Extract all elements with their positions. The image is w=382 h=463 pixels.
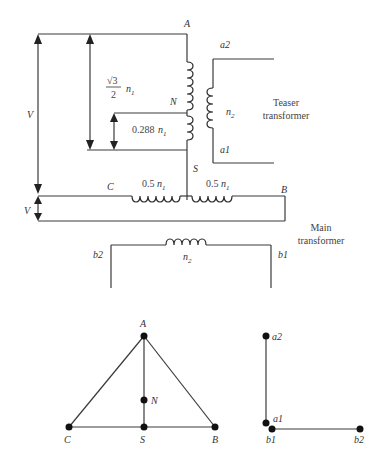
node-N xyxy=(141,397,148,404)
node-b2 xyxy=(357,426,364,433)
label-B: B xyxy=(281,184,287,195)
teaser-label-line1: Teaser xyxy=(273,97,300,108)
svg-text:n1: n1 xyxy=(221,178,230,192)
main-label-line2: transformer xyxy=(298,235,345,246)
label-S: S xyxy=(193,163,198,174)
svg-text:n1: n1 xyxy=(158,124,167,138)
svg-text:n1: n1 xyxy=(157,178,166,192)
svg-text:2: 2 xyxy=(111,89,116,100)
svg-text:N: N xyxy=(150,395,159,406)
svg-text:0.288: 0.288 xyxy=(132,124,155,135)
svg-text:0.5: 0.5 xyxy=(142,178,155,189)
node-B xyxy=(212,424,219,431)
label-A: A xyxy=(183,18,191,29)
label-C: C xyxy=(107,181,114,192)
svg-text:S: S xyxy=(140,434,145,445)
label-V-main: V xyxy=(24,205,32,216)
node-C xyxy=(66,424,73,431)
teaser-label-line2: transformer xyxy=(263,110,310,121)
voltage-arrows xyxy=(34,34,118,221)
svg-text:C: C xyxy=(64,434,71,445)
label-a1: a1 xyxy=(220,144,230,155)
node-A xyxy=(141,333,148,340)
phasor-secondary: a2 a1 b1 b2 xyxy=(263,331,365,445)
label-b1-top: b1 xyxy=(278,249,288,260)
node-a1 xyxy=(263,420,270,427)
main-primary xyxy=(38,196,285,221)
scott-t-diagram: A N S a2 a1 n2 √3 2 n1 0.288 n1 Teaser t… xyxy=(0,0,382,463)
node-b1 xyxy=(269,426,276,433)
label-N: N xyxy=(169,96,178,107)
label-sqrt3-over-2-n1: √3 2 n1 xyxy=(106,75,135,100)
node-a2 xyxy=(263,333,270,340)
svg-text:n1: n1 xyxy=(126,83,135,97)
label-0288-n1: 0.288 n1 xyxy=(132,124,167,138)
label-right-coil: 0.5 n1 xyxy=(206,178,230,192)
svg-text:B: B xyxy=(212,434,218,445)
label-n2-teaser: n2 xyxy=(226,106,235,120)
svg-text:a1: a1 xyxy=(273,413,283,424)
svg-text:√3: √3 xyxy=(107,75,118,86)
svg-text:b2: b2 xyxy=(354,434,364,445)
label-V-teaser: V xyxy=(27,109,35,120)
svg-text:A: A xyxy=(139,318,147,329)
label-n2-main: n2 xyxy=(183,251,192,265)
svg-text:b1: b1 xyxy=(266,434,276,445)
label-b2-top: b2 xyxy=(93,249,103,260)
svg-text:0.5: 0.5 xyxy=(206,178,219,189)
node-S xyxy=(141,424,148,431)
svg-text:a2: a2 xyxy=(272,331,282,342)
label-left-coil: 0.5 n1 xyxy=(142,178,166,192)
main-label-line1: Main xyxy=(310,222,331,233)
label-a2: a2 xyxy=(220,39,230,50)
phasor-primary: A N C S B xyxy=(64,318,219,445)
